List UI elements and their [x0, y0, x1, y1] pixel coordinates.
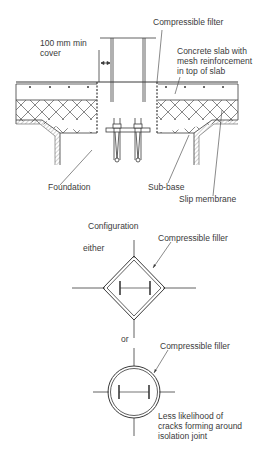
label-either: either [83, 243, 104, 253]
sub-base-left [16, 100, 97, 120]
diamond-configuration [72, 240, 196, 338]
steel-column [100, 38, 156, 102]
mesh-reinforcement [29, 86, 224, 88]
label-min-cover: 100 mm min cover [40, 38, 87, 58]
label-crack-note: Less likelihood of cracks forming around… [158, 411, 242, 441]
label-sub-base: Sub-base [148, 182, 184, 192]
sub-base-right [158, 100, 238, 120]
min-cover-dimension [99, 50, 110, 82]
label-foundation: Foundation [48, 182, 91, 192]
base-plate [106, 128, 150, 132]
column-section-symbol [120, 281, 150, 295]
label-slip-membrane: Slip membrane [179, 194, 236, 204]
label-or: or [121, 334, 129, 344]
label-diamond-filler: Compressible filler [158, 233, 228, 243]
label-concrete-slab: Concrete slab with mesh reinforcement in… [177, 46, 252, 76]
label-circle-filler: Compressible filler [160, 341, 230, 351]
anchor-bolts [113, 118, 142, 162]
column-section-symbol-2 [119, 385, 149, 399]
label-compressible-filter: Compressible filter [153, 17, 223, 27]
configuration-title: Configuration [88, 221, 139, 231]
